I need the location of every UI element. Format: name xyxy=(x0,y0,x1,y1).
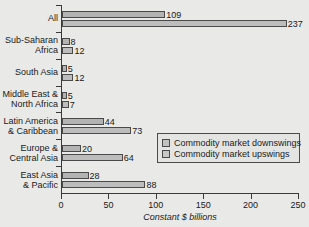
x-tick-200 xyxy=(251,194,252,199)
bar-value-label-5-1: 64 xyxy=(124,154,134,163)
y-tick-0 xyxy=(56,5,61,6)
bar-6-1 xyxy=(62,181,145,188)
y-tick-4 xyxy=(56,112,61,113)
x-tick-label-150: 150 xyxy=(183,200,223,210)
bar-value-label-6-0: 28 xyxy=(90,172,100,181)
legend-label-downswings: Commodity market downswings xyxy=(174,138,301,148)
legend-item-upswings: Commodity market upswings xyxy=(162,148,295,159)
bar-value-label-3-1: 7 xyxy=(70,101,75,110)
bar-value-label-4-0: 44 xyxy=(105,118,115,127)
bar-value-label-0-1: 237 xyxy=(288,20,303,29)
y-tick-5 xyxy=(56,139,61,140)
category-label-4: Latin America & Caribbean xyxy=(0,116,58,136)
commodity-swings-bar-chart: 050100150200250 Constant $ billions AllS… xyxy=(0,0,309,227)
legend-item-downswings: Commodity market downswings xyxy=(162,137,295,148)
bar-value-label-4-1: 73 xyxy=(132,127,142,136)
bar-3-0 xyxy=(62,92,67,99)
category-label-1: Sub-Saharan Africa xyxy=(0,35,58,55)
x-tick-250 xyxy=(298,194,299,199)
bar-5-1 xyxy=(62,154,123,161)
bar-5-0 xyxy=(62,145,81,152)
y-tick-1 xyxy=(56,32,61,33)
bar-value-label-2-1: 12 xyxy=(74,74,84,83)
bar-1-0 xyxy=(62,38,70,45)
legend-swatch-icon-downswings xyxy=(162,139,170,147)
y-tick-2 xyxy=(56,59,61,60)
x-tick-150 xyxy=(203,194,204,199)
category-label-5: Europe & Central Asia xyxy=(0,143,58,163)
x-tick-label-200: 200 xyxy=(231,200,271,210)
x-axis-line xyxy=(61,193,299,194)
chart-legend: Commodity market downswings Commodity ma… xyxy=(157,133,300,163)
y-axis-line xyxy=(61,5,62,194)
category-label-0: All xyxy=(0,13,58,23)
bar-value-label-0-0: 109 xyxy=(166,11,181,20)
bar-4-0 xyxy=(62,118,104,125)
x-tick-label-100: 100 xyxy=(136,200,176,210)
bar-0-0 xyxy=(62,11,165,18)
x-tick-0 xyxy=(61,194,62,199)
category-label-6: East Asia & Pacific xyxy=(0,170,58,190)
bar-value-label-6-1: 88 xyxy=(146,181,156,190)
plot-area: 050100150200250 Constant $ billions AllS… xyxy=(0,0,309,227)
bar-1-1 xyxy=(62,47,73,54)
x-tick-label-50: 50 xyxy=(88,200,128,210)
bar-3-1 xyxy=(62,101,69,108)
category-label-2: South Asia xyxy=(0,67,58,77)
category-label-3: Middle East & North Africa xyxy=(0,89,58,109)
x-tick-label-250: 250 xyxy=(278,200,309,210)
bar-2-1 xyxy=(62,74,73,81)
bar-value-label-1-1: 12 xyxy=(74,47,84,56)
x-tick-label-0: 0 xyxy=(41,200,81,210)
x-axis-title: Constant $ billions xyxy=(61,212,299,222)
bar-0-1 xyxy=(62,20,287,27)
bar-4-1 xyxy=(62,127,131,134)
x-tick-100 xyxy=(156,194,157,199)
y-tick-3 xyxy=(56,86,61,87)
legend-swatch-icon-upswings xyxy=(162,150,170,158)
x-tick-50 xyxy=(108,194,109,199)
bar-value-label-5-0: 20 xyxy=(82,145,92,154)
legend-label-upswings: Commodity market upswings xyxy=(174,149,290,159)
bar-2-0 xyxy=(62,65,67,72)
bar-value-label-2-0: 5 xyxy=(68,65,73,74)
bar-6-0 xyxy=(62,172,89,179)
y-tick-6 xyxy=(56,166,61,167)
